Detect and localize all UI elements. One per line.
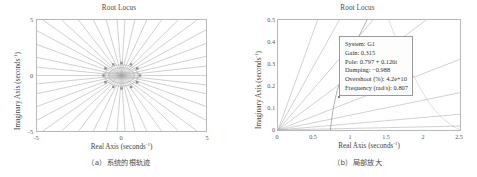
ytick-b-0: 0.5 <box>259 16 275 23</box>
caption-a-label: （a） <box>87 158 106 167</box>
xtick-b-4: 2 <box>416 133 430 140</box>
xaxis-label-b-text: Real Axis (seconds <box>338 142 393 150</box>
data-tip-overshoot: Overshoot (%): 4.2e+10 <box>345 75 408 84</box>
root-locus-curves-a <box>37 20 206 131</box>
ytick-b-5: 0 <box>263 126 275 133</box>
xtick-b-5: 2.5 <box>452 133 466 140</box>
data-tip-marker[interactable] <box>338 96 340 98</box>
figure-panel-a: Root Locus <box>0 0 238 177</box>
xtick-b-3: 1.5 <box>379 133 393 140</box>
plot-title-b: Root Locus <box>238 4 477 12</box>
data-tip-frequency: Frequency (rad/s): 0.807 <box>345 84 408 93</box>
data-tip-gain: Gain: 0.315 <box>345 49 408 58</box>
yaxis-label-b-text: Imaginary Axis (seconds <box>255 58 263 129</box>
data-tip-damping: Damping: −0.988 <box>345 66 408 75</box>
caption-b: （b）局部放大 <box>238 157 477 167</box>
xtick-b-1: 0.5 <box>306 133 320 140</box>
yaxis-label-a-sup: -1 <box>13 54 18 58</box>
yaxis-label-a-tail: ) <box>14 52 22 54</box>
yaxis-label-a-text: Imaginary Axis (seconds <box>14 59 22 130</box>
caption-a: （a）系统的根轨迹 <box>0 157 238 167</box>
xaxis-label-a: Real Axis (seconds-1) <box>36 143 207 151</box>
caption-a-text: 系统的根轨迹 <box>107 158 151 167</box>
figure-panel-b: Root Locus Syste <box>238 0 477 177</box>
caption-b-text: 局部放大 <box>353 158 382 167</box>
yaxis-label-b-tail: ) <box>255 51 263 53</box>
data-tip-system: System: G1 <box>345 40 408 49</box>
xtick-a-0: -5 <box>28 134 44 141</box>
xtick-b-2: 1 <box>343 133 357 140</box>
xtick-a-2: 5 <box>199 134 215 141</box>
data-tip-box[interactable]: System: G1 Gain: 0.315 Pole: 0.797 + 0.1… <box>339 36 413 96</box>
xaxis-label-b-tail: ) <box>397 142 399 150</box>
xtick-b-0: 0 <box>270 133 284 140</box>
root-locus-figure-pair: Root Locus <box>0 0 477 177</box>
data-tip-pole: Pole: 0.797 + 0.126i <box>345 58 408 67</box>
plot-axes-a <box>36 19 207 132</box>
plot-title-a: Root Locus <box>0 4 238 12</box>
caption-b-label: （b） <box>333 158 352 167</box>
yaxis-label-b-sup: -1 <box>254 53 259 57</box>
yaxis-label-b: Imaginary Axis (seconds-1) <box>255 51 263 129</box>
yaxis-label-a: Imaginary Axis (seconds-1) <box>14 52 22 130</box>
ytick-b-1: 0.4 <box>259 38 275 45</box>
xaxis-label-b: Real Axis (seconds-1) <box>277 142 461 150</box>
xaxis-label-a-tail: ) <box>150 143 152 151</box>
xtick-a-1: 0 <box>113 134 129 141</box>
ytick-a-0: 5 <box>20 16 33 23</box>
xaxis-label-a-text: Real Axis (seconds <box>91 143 146 151</box>
